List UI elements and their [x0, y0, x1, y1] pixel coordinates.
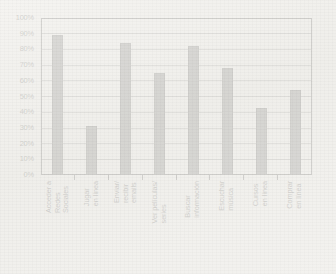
bar [86, 126, 97, 175]
y-axis-tick-label: 50% [8, 93, 34, 101]
y-axis-tick-label: 70% [8, 61, 34, 69]
bar-slot [109, 18, 143, 175]
x-axis-category-label: Ver películas/series [151, 181, 168, 223]
x-axis-tick [143, 175, 177, 180]
category-label-line: Enviar/ [113, 181, 122, 203]
x-axis-category-slot: Cursosen línea [244, 181, 278, 273]
x-axis-tick [41, 175, 75, 180]
category-label-line: series [160, 181, 169, 223]
x-axis-category-label: Buscarinformación [185, 181, 202, 218]
x-axis-ticks [41, 175, 312, 180]
bar-slot [75, 18, 109, 175]
y-axis-tick-label: 10% [8, 155, 34, 163]
bar [52, 35, 63, 175]
bar-chart: 100%90%80%70%60%50%40%30%20%10%0% Accede… [0, 0, 336, 274]
category-label-line: en línea [92, 181, 101, 206]
bar [256, 108, 267, 176]
bar [222, 68, 233, 175]
x-axis-category-labels: Acceder aRedesSocialesJugaren líneaEnvia… [41, 181, 312, 273]
x-axis-tick [109, 175, 143, 180]
bar [188, 46, 199, 175]
category-label-line: información [193, 181, 202, 218]
bar-slot [177, 18, 211, 175]
x-axis-category-slot: Enviar/recibiremails [109, 181, 143, 273]
x-axis-category-label: Compraren línea [286, 181, 303, 209]
x-axis-category-slot: Jugaren línea [75, 181, 109, 273]
x-axis-category-slot: Compraren línea [278, 181, 312, 273]
bar [154, 73, 165, 175]
x-axis-tick [278, 175, 312, 180]
bar-series [41, 18, 312, 175]
y-axis-tick-label: 100% [8, 14, 34, 22]
x-axis-category-label: Escucharmúsica [219, 181, 236, 211]
bar [120, 43, 131, 175]
category-label-line: en línea [261, 181, 270, 206]
x-axis-category-slot: Acceder aRedesSociales [41, 181, 75, 273]
x-axis-tick [177, 175, 211, 180]
x-axis-category-label: Acceder aRedesSociales [45, 181, 71, 213]
y-axis-tick-label: 0% [8, 171, 34, 179]
bar-slot [278, 18, 312, 175]
x-axis-category-slot: Buscarinformación [177, 181, 211, 273]
y-axis-tick-label: 20% [8, 140, 34, 148]
x-axis-tick [210, 175, 244, 180]
category-label-line: música [227, 181, 236, 211]
x-axis-category-slot: Ver películas/series [143, 181, 177, 273]
bar-slot [41, 18, 75, 175]
x-axis-tick [75, 175, 109, 180]
bar [290, 90, 301, 175]
category-label-line: Sociales [62, 181, 71, 213]
bar-slot [244, 18, 278, 175]
category-label-line: emails [130, 181, 139, 203]
y-axis-tick-label: 90% [8, 30, 34, 38]
y-axis-tick-label: 40% [8, 108, 34, 116]
x-axis-tick [244, 175, 278, 180]
x-axis-category-label: Jugaren línea [83, 181, 100, 206]
y-axis-tick-label: 30% [8, 124, 34, 132]
x-axis-category-label: Enviar/recibiremails [113, 181, 139, 203]
x-axis-category-slot: Escucharmúsica [210, 181, 244, 273]
category-label-line: en línea [295, 181, 304, 209]
category-label-line: Ver películas/ [151, 181, 160, 223]
y-axis-tick-label: 60% [8, 77, 34, 85]
x-axis-category-label: Cursosen línea [253, 181, 270, 206]
bar-slot [210, 18, 244, 175]
y-axis-tick-label: 80% [8, 45, 34, 53]
bar-slot [143, 18, 177, 175]
